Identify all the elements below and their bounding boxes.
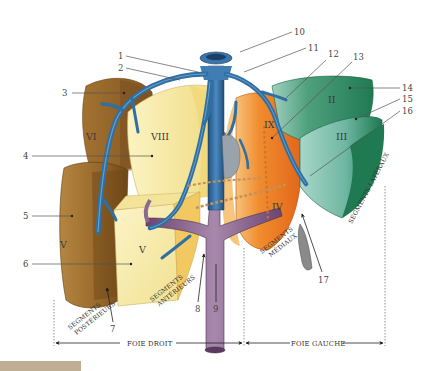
callout-17: 17 — [318, 275, 329, 285]
callout-8: 8 — [195, 304, 200, 314]
segment-V — [114, 192, 200, 306]
callout-5: 5 — [23, 211, 28, 221]
callout-6: 6 — [23, 259, 28, 269]
segment-label-II: II — [328, 94, 336, 105]
round-ligament — [298, 224, 312, 270]
callout-7: 7 — [110, 324, 115, 334]
callout-4: 4 — [23, 151, 28, 161]
callout-15: 15 — [402, 94, 413, 104]
label-right-liver: FOIE DROIT — [127, 340, 173, 348]
segment-label-V: V — [138, 244, 146, 255]
callout-9: 9 — [213, 304, 218, 314]
segment-label-IX: IX — [264, 119, 275, 130]
callout-12: 12 — [328, 49, 339, 59]
callout-1: 1 — [118, 51, 123, 61]
segment-label-VI: V — [59, 239, 67, 250]
label-left-liver: FOIE GAUCHE — [291, 340, 345, 348]
caption-bar — [0, 361, 81, 371]
callout-13: 13 — [353, 52, 364, 62]
callout-11: 11 — [308, 43, 319, 53]
callout-10: 10 — [294, 27, 305, 37]
segment-label-VIII: VIII — [150, 131, 169, 142]
callout-3: 3 — [62, 88, 67, 98]
callout-14: 14 — [402, 83, 413, 93]
callout-16: 16 — [402, 106, 413, 116]
liver-segments-diagram: VI VIII V V IX IV II III 1 2 3 4 5 6 7 8 — [0, 0, 434, 371]
segment-label-IV: IV — [272, 201, 283, 212]
segment-label-III: III — [336, 131, 348, 142]
segment-label-VII: VI — [85, 131, 97, 142]
callout-2: 2 — [118, 63, 123, 73]
